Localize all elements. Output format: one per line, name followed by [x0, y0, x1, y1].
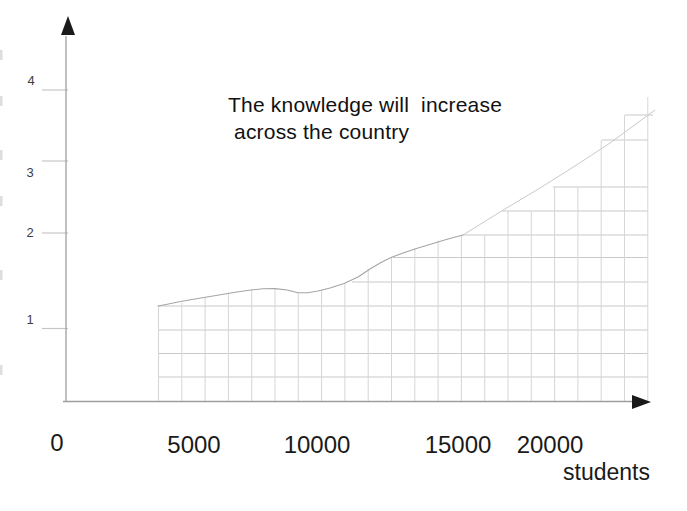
chart-figure: The knowledge will increase across the c… [0, 0, 687, 511]
data-curve [158, 235, 463, 306]
scan-edge-mark [0, 150, 3, 160]
scan-edge-mark [0, 50, 3, 60]
scan-edge-mark [0, 270, 3, 280]
x-tick-label-5000: 5000 [144, 431, 244, 459]
chart-title-line1: The knowledge will increase [228, 93, 502, 117]
y-tick-label-2: 2 [20, 225, 40, 240]
x-tick-label-20000: 20000 [490, 431, 610, 459]
scan-edge-mark [0, 196, 3, 206]
data-curve-faint-continuation [463, 110, 655, 235]
chart-title-line2: across the country [234, 120, 409, 144]
scan-edge-mark [0, 365, 3, 375]
x-axis-caption: students [563, 459, 650, 486]
y-tick-label-3: 3 [20, 165, 40, 180]
scan-edge-mark [0, 96, 3, 106]
y-tick-label-1: 1 [20, 312, 40, 327]
x-tick-label-0: 0 [37, 429, 77, 457]
x-tick-label-10000: 10000 [257, 431, 377, 459]
y-axis-arrowhead [61, 16, 75, 35]
y-tick-label-4: 4 [21, 73, 41, 88]
